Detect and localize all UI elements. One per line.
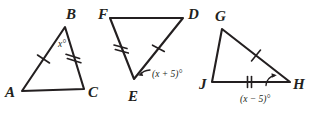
vertex-label-d: D (187, 6, 199, 22)
vertex-label-g: G (215, 8, 226, 24)
vertex-label-f: F (97, 6, 108, 22)
triangle-fde: F D E (x + 5)° (97, 6, 199, 104)
angle-arrow-h-head (272, 73, 277, 78)
tick-mark-single-gh (252, 50, 261, 61)
geometry-figure: A B C x° F D E (x + 5)° (0, 0, 309, 115)
tick-mark-single-ed (153, 45, 165, 51)
vertex-label-h: H (292, 76, 306, 92)
angle-label-b: x° (57, 39, 66, 49)
vertex-label-c: C (88, 84, 99, 100)
triangle-abc-outline (22, 27, 84, 91)
vertex-label-a: A (4, 84, 15, 100)
triangle-gjh-outline (212, 29, 290, 82)
figure-canvas: A B C x° F D E (x + 5)° (0, 0, 309, 115)
angle-label-e: (x + 5)° (152, 69, 182, 80)
vertex-label-b: B (65, 6, 76, 22)
triangle-gjh: J H G (x − 5)° (198, 8, 306, 105)
triangle-abc: A B C x° (4, 6, 99, 100)
tick-mark-single-ab (38, 55, 50, 63)
angle-label-h: (x − 5)° (240, 94, 270, 105)
vertex-label-j: J (198, 76, 207, 92)
vertex-label-e: E (127, 88, 138, 104)
